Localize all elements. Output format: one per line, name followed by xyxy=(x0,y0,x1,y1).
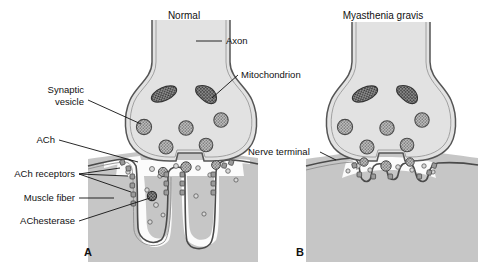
panel-a-title: Normal xyxy=(168,10,200,21)
label-synaptic-vesicle-line1: Synaptic xyxy=(48,84,85,95)
label-mitochondrion: Mitochondrion xyxy=(241,69,301,80)
panel-a-normal xyxy=(88,20,258,262)
diagram-canvas: Normal Myasthenia gravis Axon Mitochondr… xyxy=(0,0,491,268)
label-axon: Axon xyxy=(226,35,248,46)
label-muscle-fiber: Muscle fiber xyxy=(24,192,75,203)
achesterase-particle-a xyxy=(147,191,156,200)
label-synaptic-vesicle-line2: vesicle xyxy=(55,96,84,107)
neuromuscular-junction-figure: Normal Myasthenia gravis Axon Mitochondr… xyxy=(0,0,491,268)
panel-letter-b: B xyxy=(296,246,304,258)
label-ach-receptors: ACh receptors xyxy=(14,168,75,179)
label-nerve-terminal: Nerve terminal xyxy=(248,146,310,157)
panel-b-title: Myasthenia gravis xyxy=(343,10,424,21)
label-achesterase: AChesterase xyxy=(20,215,75,226)
panel-letter-a: A xyxy=(84,246,92,258)
panel-b-myasthenia xyxy=(306,22,478,262)
label-ach: ACh xyxy=(37,134,55,145)
nerve-terminal-b xyxy=(326,22,455,161)
